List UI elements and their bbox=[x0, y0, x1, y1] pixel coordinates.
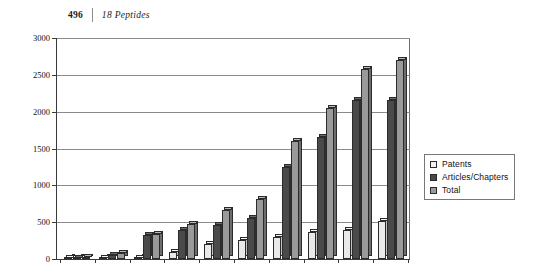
bar-side bbox=[264, 196, 267, 256]
bar-total bbox=[291, 141, 299, 259]
chart-legend: PatentsArticles/ChaptersTotal bbox=[424, 154, 515, 200]
bar-group bbox=[64, 38, 90, 259]
bar-face bbox=[108, 255, 116, 259]
bar-face bbox=[343, 230, 351, 259]
bar-group bbox=[343, 38, 369, 259]
bar-face bbox=[169, 252, 177, 259]
bar-face bbox=[238, 240, 246, 259]
bar-face bbox=[256, 199, 264, 259]
legend-item: Patents bbox=[430, 159, 508, 169]
plot-area: 050010001500200025003000 bbox=[56, 38, 410, 259]
x-tick-mark bbox=[60, 259, 61, 263]
bar-side bbox=[195, 221, 198, 256]
bar-total bbox=[82, 257, 90, 259]
bar-top bbox=[224, 207, 232, 210]
y-tick-label: 2000 bbox=[33, 107, 50, 117]
bar-top bbox=[363, 66, 371, 69]
bar-face bbox=[152, 234, 160, 259]
bar-top bbox=[84, 254, 92, 257]
bar-group bbox=[273, 38, 299, 259]
x-tick-mark bbox=[304, 259, 305, 263]
bar-top bbox=[293, 138, 301, 141]
bar-total bbox=[187, 224, 195, 259]
bar-patents bbox=[343, 230, 351, 259]
bar-articles-chapters bbox=[282, 167, 290, 259]
bar-patents bbox=[64, 258, 72, 260]
bar-side bbox=[369, 66, 372, 256]
bar-group bbox=[308, 38, 334, 259]
x-tick-mark bbox=[199, 259, 200, 263]
bar-face bbox=[213, 225, 221, 259]
bar-face bbox=[317, 137, 325, 259]
bar-face bbox=[361, 69, 369, 259]
bar-articles-chapters bbox=[247, 218, 255, 259]
bar-total bbox=[256, 199, 264, 259]
bar-patents bbox=[238, 240, 246, 259]
bar-total bbox=[361, 69, 369, 259]
bar-total bbox=[152, 234, 160, 259]
bar-face bbox=[326, 108, 334, 259]
bar-patents bbox=[308, 232, 316, 259]
bar-articles-chapters bbox=[73, 258, 81, 260]
bar-face bbox=[291, 141, 299, 259]
bar-group bbox=[238, 38, 264, 259]
bar-face bbox=[273, 237, 281, 259]
bar-group bbox=[99, 38, 125, 259]
bar-face bbox=[378, 221, 386, 259]
page-header: 496 18 Peptides bbox=[68, 8, 150, 22]
y-tick-label: 0 bbox=[46, 254, 50, 264]
bar-group bbox=[204, 38, 230, 259]
bar-face bbox=[352, 100, 360, 259]
bar-side bbox=[404, 57, 407, 256]
y-tick-label: 500 bbox=[37, 217, 50, 227]
legend-swatch-icon bbox=[430, 161, 437, 168]
y-tick-label: 2500 bbox=[33, 70, 50, 80]
bar-top bbox=[328, 105, 336, 108]
x-tick-mark bbox=[130, 259, 131, 263]
legend-item: Articles/Chapters bbox=[430, 172, 508, 182]
bar-side bbox=[334, 105, 337, 256]
bar-total bbox=[222, 210, 230, 259]
bar-face bbox=[308, 232, 316, 259]
legend-swatch-icon bbox=[430, 174, 437, 181]
y-tick-label: 3000 bbox=[33, 33, 50, 43]
bar-group bbox=[134, 38, 160, 259]
legend-label: Patents bbox=[442, 159, 472, 169]
legend-swatch-icon bbox=[430, 187, 437, 194]
header-divider bbox=[92, 8, 93, 22]
bar-articles-chapters bbox=[108, 255, 116, 259]
y-tick-label: 1000 bbox=[33, 180, 50, 190]
bar-patents bbox=[378, 221, 386, 259]
legend-label: Total bbox=[442, 185, 460, 195]
bar-patents bbox=[204, 244, 212, 259]
bar-chart: 050010001500200025003000 PatentsArticles… bbox=[0, 26, 540, 260]
bar-top bbox=[119, 250, 127, 253]
x-tick-mark bbox=[269, 259, 270, 263]
bar-side bbox=[160, 231, 163, 256]
legend-label: Articles/Chapters bbox=[442, 172, 508, 182]
bar-top bbox=[154, 231, 162, 234]
bar-face bbox=[187, 224, 195, 259]
x-tick-mark bbox=[338, 259, 339, 263]
bar-articles-chapters bbox=[178, 230, 186, 259]
bar-group bbox=[169, 38, 195, 259]
bar-side bbox=[230, 207, 233, 256]
bar-top bbox=[398, 57, 406, 60]
bar-series-container bbox=[56, 38, 410, 259]
y-tick-mark bbox=[52, 259, 57, 260]
bar-face bbox=[282, 167, 290, 259]
bar-patents bbox=[99, 258, 107, 260]
bar-top bbox=[189, 221, 197, 224]
bar-face bbox=[247, 218, 255, 259]
bar-group bbox=[378, 38, 404, 259]
bar-face bbox=[222, 210, 230, 259]
bar-total bbox=[326, 108, 334, 259]
bar-face bbox=[387, 100, 395, 259]
page-folio-number: 496 bbox=[68, 10, 83, 20]
x-tick-mark bbox=[164, 259, 165, 263]
x-tick-mark bbox=[234, 259, 235, 263]
bar-patents bbox=[169, 252, 177, 259]
running-title: 18 Peptides bbox=[102, 10, 150, 20]
legend-item: Total bbox=[430, 185, 508, 195]
bar-articles-chapters bbox=[317, 137, 325, 259]
